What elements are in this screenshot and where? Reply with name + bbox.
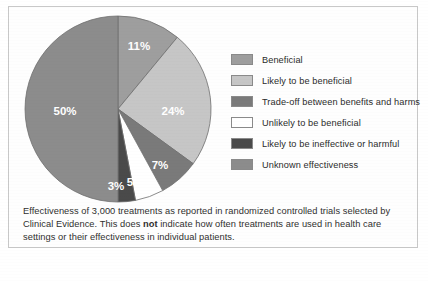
pie-label-11: 11% [128,40,150,52]
legend-item-ineffective-harmful[interactable]: Likely to be ineffective or harmful [221,133,417,154]
figure-caption: Effectiveness of 3,000 treatments as rep… [23,205,409,245]
legend: Beneficial Likely to be beneficial Trade… [221,49,417,175]
pie-chart-svg: 11% 24% 7% 5% 3% 50% [13,9,213,203]
pie-label-3: 3% [108,180,125,192]
legend-item-tradeoff[interactable]: Trade-off between benefits and harms [221,91,417,112]
pie-chart: 11% 24% 7% 5% 3% 50% [9,7,219,197]
legend-label-tradeoff: Trade-off between benefits and harms [262,97,420,107]
legend-swatch-ineffective-harmful [231,138,253,149]
legend-label-unlikely-beneficial: Unlikely to be beneficial [262,118,361,128]
legend-item-likely-beneficial[interactable]: Likely to be beneficial [221,70,417,91]
legend-label-likely-beneficial: Likely to be beneficial [262,76,352,86]
legend-label-beneficial: Beneficial [262,55,303,65]
legend-swatch-tradeoff [231,96,253,107]
legend-label-unknown-effectiveness: Unknown effectiveness [262,160,358,170]
legend-item-unknown-effectiveness[interactable]: Unknown effectiveness [221,154,417,175]
caption-emphasis: not [143,219,158,229]
legend-swatch-likely-beneficial [231,75,253,86]
legend-swatch-beneficial [231,54,253,65]
pie-label-50: 50% [53,105,76,117]
legend-swatch-unknown-effectiveness [231,159,253,170]
legend-swatch-unlikely-beneficial [231,117,253,128]
pie-label-24: 24% [161,105,184,117]
pie-label-5: 5% [127,176,144,188]
pie-label-7: 7% [152,159,169,171]
legend-item-unlikely-beneficial[interactable]: Unlikely to be beneficial [221,112,417,133]
legend-item-beneficial[interactable]: Beneficial [221,49,417,70]
legend-label-ineffective-harmful: Likely to be ineffective or harmful [262,139,399,149]
figure-frame: 11% 24% 7% 5% 3% 50% Beneficial Likely t… [8,6,418,248]
